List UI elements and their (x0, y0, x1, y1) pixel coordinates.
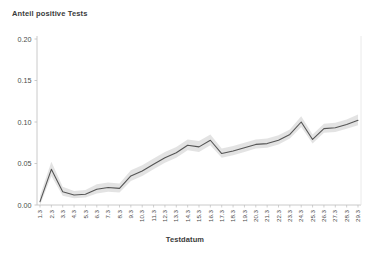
x-axis-tick-label: 29.3 (354, 209, 361, 222)
x-axis-tick-label: 9.3 (127, 209, 134, 218)
chart-container: Anteil positive Tests 0.000.050.100.150.… (0, 0, 370, 255)
x-axis-tick-label: 3.3 (59, 209, 66, 218)
x-axis-tick-label: 2.3 (48, 209, 55, 218)
x-axis-tick-label: 10.3 (138, 209, 145, 222)
y-axis-tick-label: 0.10 (18, 118, 32, 127)
x-axis-tick-label: 16.3 (207, 209, 214, 222)
x-axis-tick-label: 28.3 (343, 209, 350, 222)
x-axis-tick-label: 8.3 (116, 209, 123, 218)
x-axis-tick-group: 1.32.33.34.35.36.37.38.39.310.311.312.31… (36, 205, 361, 222)
confidence-band (40, 115, 358, 205)
x-axis-tick-label: 17.3 (218, 209, 225, 222)
x-axis-tick-label: 12.3 (161, 209, 168, 222)
x-axis-tick-label: 13.3 (172, 209, 179, 222)
x-axis-tick-label: 24.3 (297, 209, 304, 222)
x-axis-tick-label: 1.3 (36, 209, 43, 218)
x-axis-tick-label: 4.3 (70, 209, 77, 218)
x-axis-tick-label: 20.3 (252, 209, 259, 222)
x-axis-tick-label: 11.3 (150, 209, 157, 221)
y-axis-tick-group: 0.000.050.100.150.20 (18, 35, 38, 210)
x-axis-tick-label: 25.3 (309, 209, 316, 222)
x-axis-tick-label: 5.3 (82, 209, 89, 218)
x-axis-tick-label: 22.3 (275, 209, 282, 222)
y-axis-tick-label: 0.05 (18, 159, 32, 168)
x-axis-tick-label: 21.3 (263, 209, 270, 222)
x-axis-tick-label: 18.3 (229, 209, 236, 222)
x-axis-tick-label: 6.3 (93, 209, 100, 218)
x-axis-tick-label: 19.3 (241, 209, 248, 222)
y-axis-tick-label: 0.00 (18, 201, 32, 210)
x-axis-tick-label: 27.3 (331, 209, 338, 222)
x-axis-tick-label: 7.3 (104, 209, 111, 218)
x-axis-tick-label: 23.3 (286, 209, 293, 222)
y-axis-tick-label: 0.15 (18, 76, 32, 85)
x-axis-title: Testdatum (0, 235, 370, 244)
chart-plot-area: 0.000.050.100.150.20 1.32.33.34.35.36.37… (0, 0, 370, 255)
x-axis-tick-label: 26.3 (320, 209, 327, 222)
x-axis-tick-label: 14.3 (184, 209, 191, 222)
y-axis-tick-label: 0.20 (18, 35, 32, 44)
x-axis-tick-label: 15.3 (195, 209, 202, 222)
